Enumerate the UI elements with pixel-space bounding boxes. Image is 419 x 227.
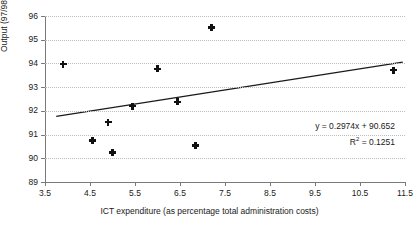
gridline-horizontal <box>45 111 405 112</box>
gridline-horizontal <box>45 16 405 17</box>
y-axis-tick-label: 90 <box>12 154 38 163</box>
x-axis-tick-label: 11.5 <box>390 189 419 198</box>
x-axis-tick <box>270 182 271 186</box>
x-axis-tick-label: 9.5 <box>300 189 330 198</box>
data-point <box>105 119 112 126</box>
y-axis-tick <box>41 158 45 159</box>
gridline-horizontal <box>45 87 405 88</box>
gridline-horizontal <box>45 40 405 41</box>
y-axis-title: Output (97/98 = 100) <box>0 0 9 52</box>
x-axis-tick <box>90 182 91 186</box>
regression-equation: y = 0.2974x + 90.652 <box>315 120 395 133</box>
plot-area: y = 0.2974x + 90.652 R2 = 0.1251 <box>45 16 405 182</box>
y-axis-tick-label: 95 <box>12 35 38 44</box>
gridline-horizontal <box>45 158 405 159</box>
y-axis-tick <box>41 63 45 64</box>
x-axis-tick <box>405 182 406 186</box>
y-axis-tick-label: 92 <box>12 106 38 115</box>
y-axis-tick-label: 94 <box>12 59 38 68</box>
y-axis-tick <box>41 40 45 41</box>
data-point <box>390 67 397 74</box>
r-squared-number: = 0.1251 <box>359 137 395 147</box>
data-point <box>89 137 96 144</box>
y-axis-tick <box>41 16 45 17</box>
x-axis-tick <box>135 182 136 186</box>
data-point <box>60 61 67 68</box>
x-axis-tick-label: 5.5 <box>120 189 150 198</box>
data-point <box>208 24 215 31</box>
x-axis-tick <box>45 182 46 186</box>
x-axis-tick <box>225 182 226 186</box>
x-axis-tick-label: 3.5 <box>30 189 60 198</box>
y-axis-tick-label: 96 <box>12 12 38 21</box>
trendline <box>45 16 405 182</box>
x-axis-tick <box>315 182 316 186</box>
data-point <box>109 149 116 156</box>
data-point <box>154 65 161 72</box>
y-axis-tick-label: 93 <box>12 83 38 92</box>
y-axis-tick <box>41 111 45 112</box>
y-axis-tick-label: 91 <box>12 130 38 139</box>
gridline-horizontal <box>45 63 405 64</box>
y-axis-tick <box>41 87 45 88</box>
y-axis-tick <box>41 135 45 136</box>
x-axis-tick-label: 8.5 <box>255 189 285 198</box>
data-point <box>174 98 181 105</box>
data-point <box>192 142 199 149</box>
data-point <box>129 103 136 110</box>
x-axis-tick <box>180 182 181 186</box>
x-axis-tick-label: 6.5 <box>165 189 195 198</box>
y-axis-tick-label: 89 <box>12 178 38 187</box>
gridline-horizontal <box>45 135 405 136</box>
x-axis-tick-label: 7.5 <box>210 189 240 198</box>
x-axis-title: ICT expenditure (as percentage total adm… <box>0 206 419 216</box>
x-axis-tick <box>360 182 361 186</box>
x-axis-tick-label: 4.5 <box>75 189 105 198</box>
scatter-chart: Output (97/98 = 100) ICT expenditure (as… <box>0 0 419 227</box>
x-axis-tick-label: 10.5 <box>345 189 375 198</box>
